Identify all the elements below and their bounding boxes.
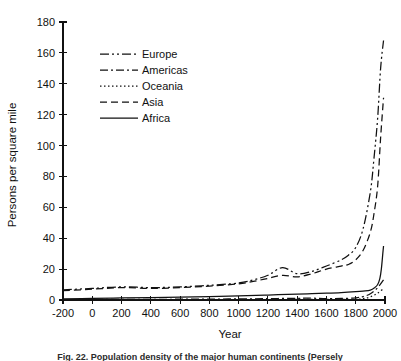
y-tick-label: 160 (37, 47, 55, 59)
y-tick-label: 20 (43, 263, 55, 275)
y-tick-label: 140 (37, 78, 55, 90)
x-tick-label: 2000 (373, 307, 397, 319)
y-tick-label: 40 (43, 232, 55, 244)
x-tick-label: 1200 (256, 307, 280, 319)
x-tick-label: 400 (142, 307, 160, 319)
y-tick-label: 180 (37, 16, 55, 28)
x-tick-label: -200 (52, 307, 74, 319)
legend-label-asia: Asia (142, 96, 164, 108)
x-tick-label: 0 (89, 307, 95, 319)
x-tick-label: 1400 (285, 307, 309, 319)
legend-label-africa: Africa (142, 112, 171, 124)
y-tick-label: 120 (37, 109, 55, 121)
legend-label-europe: Europe (142, 48, 177, 60)
y-tick-label: 100 (37, 140, 55, 152)
population-density-chart: 020406080100120140160180 -20002004006008… (0, 0, 401, 361)
x-tick-label: 200 (112, 307, 130, 319)
svg-text:Fig. 22. Population density: Fig. 22. Population density of the major… (57, 352, 343, 361)
legend-label-americas: Americas (142, 64, 188, 76)
legend-label-oceania: Oceania (142, 80, 184, 92)
y-axis-title: Persons per square mile (6, 103, 18, 228)
x-tick-label: 1000 (226, 307, 250, 319)
x-tick-label: 600 (171, 307, 189, 319)
y-tick-label: 80 (43, 170, 55, 182)
figure-container: 020406080100120140160180 -20002004006008… (0, 0, 401, 361)
y-tick-label: 0 (49, 294, 55, 306)
x-axis-title: Year (218, 328, 241, 340)
y-tick-label: 60 (43, 201, 55, 213)
x-tick-label: 800 (200, 307, 218, 319)
figure-caption: Fig. 22. Population density of the major… (57, 352, 343, 361)
x-tick-label: 1600 (314, 307, 338, 319)
x-tick-label: 1800 (343, 307, 367, 319)
